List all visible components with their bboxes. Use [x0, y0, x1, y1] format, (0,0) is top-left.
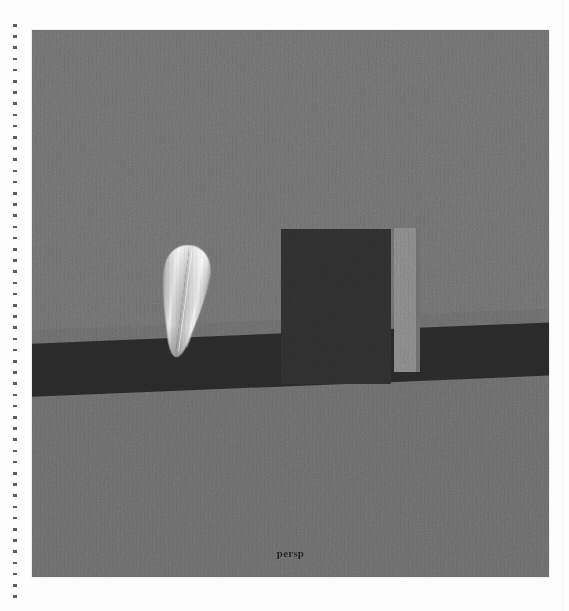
camera-name-label: persp [32, 547, 549, 559]
pillar-object[interactable] [394, 228, 418, 372]
dark-box-object[interactable] [281, 229, 391, 384]
scanned-page: persp [0, 0, 569, 611]
perspective-viewport[interactable]: persp [32, 30, 549, 577]
pillar-shade-edge [416, 228, 420, 372]
page-crease [562, 0, 565, 611]
dotted-margin-rule [13, 24, 17, 604]
